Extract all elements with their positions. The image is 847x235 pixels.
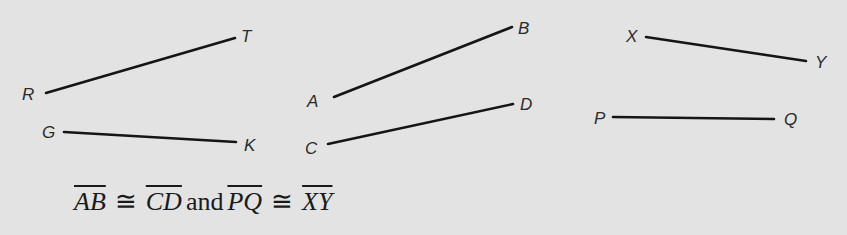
point-label-k: K: [244, 136, 256, 155]
congruent-symbol: ≅: [271, 187, 293, 216]
segment-pq-notation: PQ: [227, 187, 262, 216]
point-label-d: D: [520, 95, 532, 114]
point-label-y: Y: [815, 53, 828, 72]
segment-line: [646, 37, 806, 61]
segment-line: [46, 38, 235, 93]
segment-xy: XY: [625, 27, 828, 72]
point-label-t: T: [241, 27, 253, 46]
point-label-b: B: [518, 19, 529, 38]
point-label-r: R: [22, 85, 34, 104]
segment-rt: RT: [22, 27, 253, 104]
segment-line: [613, 117, 774, 119]
segment-cd: CD: [305, 95, 532, 158]
segment-line: [64, 132, 236, 142]
point-label-x: X: [625, 27, 638, 46]
point-label-c: C: [305, 139, 318, 158]
point-label-p: P: [594, 109, 606, 128]
segment-xy-notation: XY: [302, 187, 332, 216]
segment-pq: PQ: [594, 109, 797, 129]
conjunction-text: and: [186, 187, 224, 216]
segment-ab-notation: AB: [74, 187, 106, 216]
segment-ab: AB: [306, 19, 529, 111]
congruent-symbol: ≅: [115, 187, 137, 216]
congruence-caption: AB≅CDandPQ≅XY: [74, 186, 332, 217]
segment-line: [334, 27, 512, 97]
segment-gk: GK: [42, 123, 256, 155]
segment-cd-notation: CD: [146, 187, 182, 216]
point-label-q: Q: [784, 110, 797, 129]
point-label-a: A: [306, 92, 318, 111]
point-label-g: G: [42, 123, 55, 142]
segment-line: [328, 104, 513, 144]
